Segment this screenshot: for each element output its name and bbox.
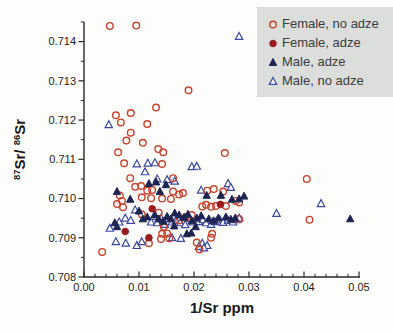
legend-item-female-no-adze: Female, no adze [267, 14, 389, 33]
open-triangle-icon [267, 75, 282, 87]
svg-text:0.711: 0.711 [49, 153, 76, 165]
filled-circle-icon [267, 37, 282, 49]
y-axis-title: 87Sr/ 86Sr [11, 119, 28, 180]
legend-item-female-adze: Female, adze [267, 33, 389, 52]
svg-text:0.709: 0.709 [48, 232, 76, 244]
svg-text:0.05: 0.05 [348, 281, 369, 293]
x-axis-title: 1/Sr ppm [190, 299, 254, 316]
legend-label: Female, no adze [282, 16, 379, 31]
svg-text:0.714: 0.714 [48, 35, 76, 47]
svg-text:0.03: 0.03 [238, 281, 259, 293]
legend: Female, no adze Female, adze Male, adze … [257, 7, 393, 97]
svg-text:0.02: 0.02 [183, 281, 204, 293]
svg-text:0.04: 0.04 [293, 281, 314, 293]
svg-text:0.712: 0.712 [48, 114, 76, 126]
svg-text:0.00: 0.00 [73, 281, 94, 293]
svg-text:0.713: 0.713 [48, 75, 76, 87]
svg-text:0.710: 0.710 [48, 192, 76, 204]
legend-label: Male, no adze [282, 73, 364, 88]
legend-label: Female, adze [282, 35, 361, 50]
legend-item-male-adze: Male, adze [267, 52, 389, 71]
svg-text:0.01: 0.01 [128, 281, 149, 293]
svg-text:87Sr/ 86Sr: 87Sr/ 86Sr [11, 119, 28, 180]
filled-triangle-icon [267, 56, 282, 68]
legend-label: Male, adze [282, 54, 346, 69]
strontium-scatter-figure: 0.000.010.020.030.040.050.7080.7090.7100… [0, 0, 393, 334]
open-circle-icon [267, 18, 282, 30]
legend-item-male-no-adze: Male, no adze [267, 71, 389, 90]
svg-text:0.708: 0.708 [48, 271, 76, 283]
